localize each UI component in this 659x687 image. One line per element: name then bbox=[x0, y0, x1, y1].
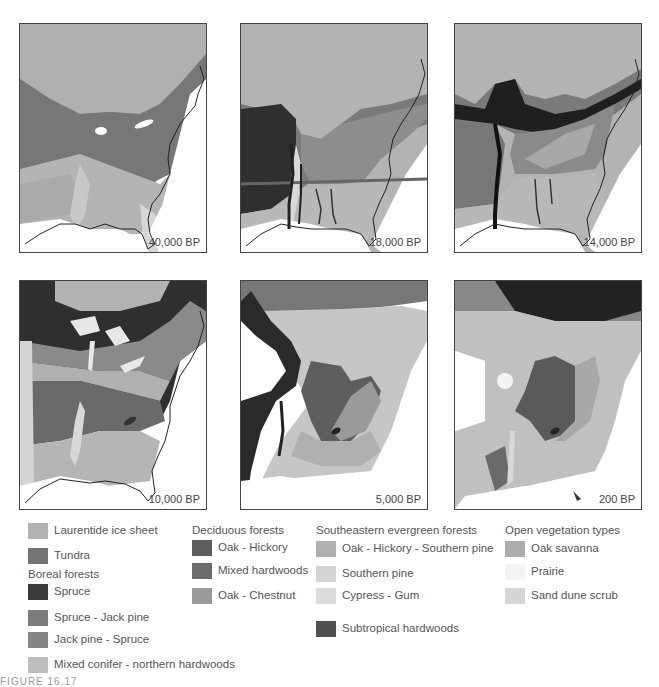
panel-date-label: 14,000 BP bbox=[584, 236, 635, 248]
color-swatch bbox=[28, 657, 48, 673]
color-swatch bbox=[192, 540, 212, 556]
panel-date-label: 18,000 BP bbox=[370, 236, 421, 248]
color-swatch bbox=[316, 588, 336, 604]
vegetation-map-5000bp bbox=[241, 281, 427, 509]
vegetation-map-10000bp bbox=[20, 281, 206, 509]
legend-label: Prairie bbox=[531, 565, 564, 577]
map-panel-5000bp: 5,000 BP bbox=[240, 280, 428, 510]
map-panel-200bp: 200 BP bbox=[454, 280, 642, 510]
legend-label: Oak - Chestnut bbox=[218, 589, 295, 601]
vegetation-map-40000bp bbox=[20, 24, 206, 252]
legend-label: Subtropical hardwoods bbox=[342, 622, 459, 634]
color-swatch bbox=[28, 584, 48, 600]
legend-label: Mixed hardwoods bbox=[218, 564, 308, 576]
color-swatch bbox=[505, 564, 525, 580]
legend-label: Tundra bbox=[54, 549, 90, 561]
legend-label: Oak - Hickory - Southern pine bbox=[342, 542, 493, 554]
color-swatch bbox=[505, 541, 525, 557]
panel-date-label: 10,000 BP bbox=[149, 493, 200, 505]
figure-caption: FIGURE 16.17 bbox=[0, 676, 78, 687]
map-panel-10000bp: 10,000 BP bbox=[19, 280, 207, 510]
vegetation-map-18000bp bbox=[241, 24, 427, 252]
color-swatch bbox=[505, 588, 525, 604]
color-swatch bbox=[28, 523, 48, 539]
legend-group-title-deciduous: Deciduous forests bbox=[192, 524, 284, 536]
legend: Laurentide ice sheet Tundra Boreal fores… bbox=[0, 518, 659, 668]
legend-label: Spruce bbox=[54, 585, 90, 597]
legend-label: Spruce - Jack pine bbox=[54, 611, 149, 623]
color-swatch bbox=[316, 541, 336, 557]
legend-label: Cypress - Gum bbox=[342, 589, 419, 601]
color-swatch bbox=[316, 621, 336, 637]
color-swatch bbox=[28, 610, 48, 626]
vegetation-map-200bp bbox=[455, 281, 641, 509]
map-panel-14000bp: 14,000 BP bbox=[454, 23, 642, 253]
legend-label: Southern pine bbox=[342, 567, 414, 579]
vegetation-map-14000bp bbox=[455, 24, 641, 252]
color-swatch bbox=[28, 632, 48, 648]
color-swatch bbox=[192, 563, 212, 579]
legend-label: Oak - Hickory bbox=[218, 541, 288, 553]
legend-group-title-southeastern: Southeastern evergreen forests bbox=[316, 524, 477, 536]
legend-label: Mixed conifer - northern hardwoods bbox=[54, 658, 235, 670]
legend-label: Jack pine - Spruce bbox=[54, 633, 149, 645]
color-swatch bbox=[316, 566, 336, 582]
panel-date-label: 40,000 BP bbox=[149, 236, 200, 248]
legend-label: Oak savanna bbox=[531, 542, 599, 554]
legend-label: Laurentide ice sheet bbox=[54, 524, 158, 536]
color-swatch bbox=[28, 548, 48, 564]
legend-group-title-open-vegetation: Open vegetation types bbox=[505, 524, 620, 536]
legend-label: Sand dune scrub bbox=[531, 589, 618, 601]
panel-date-label: 200 BP bbox=[599, 493, 635, 505]
map-panel-18000bp: 18,000 BP bbox=[240, 23, 428, 253]
legend-group-title-boreal: Boreal forests bbox=[28, 568, 99, 580]
panel-date-label: 5,000 BP bbox=[376, 493, 421, 505]
map-panel-40000bp: 40,000 BP bbox=[19, 23, 207, 253]
color-swatch bbox=[192, 588, 212, 604]
